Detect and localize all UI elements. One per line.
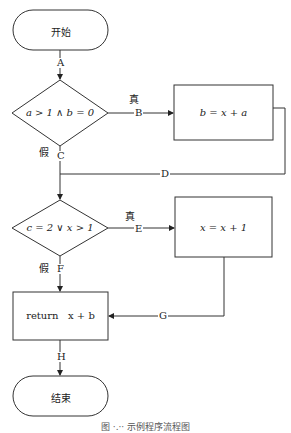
edge-g (109, 257, 224, 316)
return-label: return x + b (13, 310, 108, 321)
edge-label-d: D (160, 169, 170, 179)
decision1-label: a > 1 ∧ b = 0 (12, 107, 108, 118)
decision2-label: c = 2 ∨ x > 1 (12, 222, 108, 233)
figure-caption: 图 ·.·· 示例程序流程图 (0, 420, 291, 433)
edge-label-a: A (56, 58, 65, 68)
edge-label-b: B (134, 108, 143, 118)
true-label-2: 真 (124, 212, 136, 222)
start-label: 开始 (13, 24, 108, 39)
edge-label-h: H (56, 352, 67, 362)
process1-label: b = x + a (174, 107, 273, 118)
edge-label-f: F (56, 264, 65, 274)
edge-label-e: E (134, 224, 143, 234)
end-label: 结束 (13, 390, 108, 405)
edge-label-g: G (158, 311, 168, 321)
edge-label-c: C (56, 151, 66, 161)
true-label-1: 真 (128, 95, 140, 105)
process2-label: x = x + 1 (175, 222, 272, 233)
false-label-2: 假 (38, 264, 50, 274)
false-label-1: 假 (38, 148, 50, 158)
